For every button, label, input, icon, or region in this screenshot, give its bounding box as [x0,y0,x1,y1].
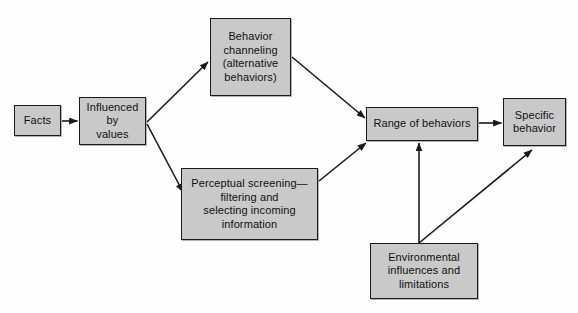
node-specific-behavior-label: Specific behavior [510,109,559,136]
node-influenced-by-values-label: Influenced by values [84,101,142,142]
flowchart-diagram: Facts Influenced by values Behavior chan… [0,0,578,313]
node-perceptual-screening[interactable]: Perceptual screening— filtering and sele… [181,168,318,240]
node-facts-label: Facts [21,114,54,128]
node-range-of-behaviors[interactable]: Range of behaviors [366,107,478,141]
node-behavior-channeling[interactable]: Behavior channeling (alternative behavio… [210,18,291,96]
edge-influenced-to-perceptual [147,124,183,192]
edge-influenced-to-channeling [147,62,208,122]
node-facts[interactable]: Facts [14,105,61,136]
node-range-of-behaviors-label: Range of behaviors [370,117,473,131]
node-influenced-by-values[interactable]: Influenced by values [79,97,146,145]
edge-environment-to-specific [419,150,532,243]
node-environmental-influences[interactable]: Environmental influences and limitations [370,243,478,299]
node-behavior-channeling-label: Behavior channeling (alternative behavio… [220,30,282,84]
node-specific-behavior[interactable]: Specific behavior [503,98,566,146]
edge-channeling-to-range [292,57,365,118]
node-perceptual-screening-label: Perceptual screening— filtering and sele… [188,177,310,231]
edge-perceptual-to-range [319,143,366,181]
node-environmental-influences-label: Environmental influences and limitations [385,251,463,292]
